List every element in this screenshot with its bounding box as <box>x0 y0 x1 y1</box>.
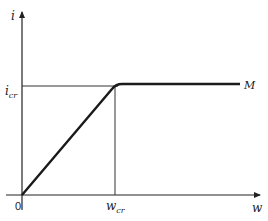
i-cr-label: icr <box>5 84 18 100</box>
curve-m <box>22 84 240 195</box>
w-cr-label: wcr <box>106 199 126 215</box>
origin-label: 0 <box>15 200 21 212</box>
curve-m-label: M <box>243 79 256 92</box>
y-axis-label: i <box>11 9 15 23</box>
diagram-canvas: i w 0 icr wcr M <box>0 0 268 221</box>
x-axis-label: w <box>252 201 263 215</box>
